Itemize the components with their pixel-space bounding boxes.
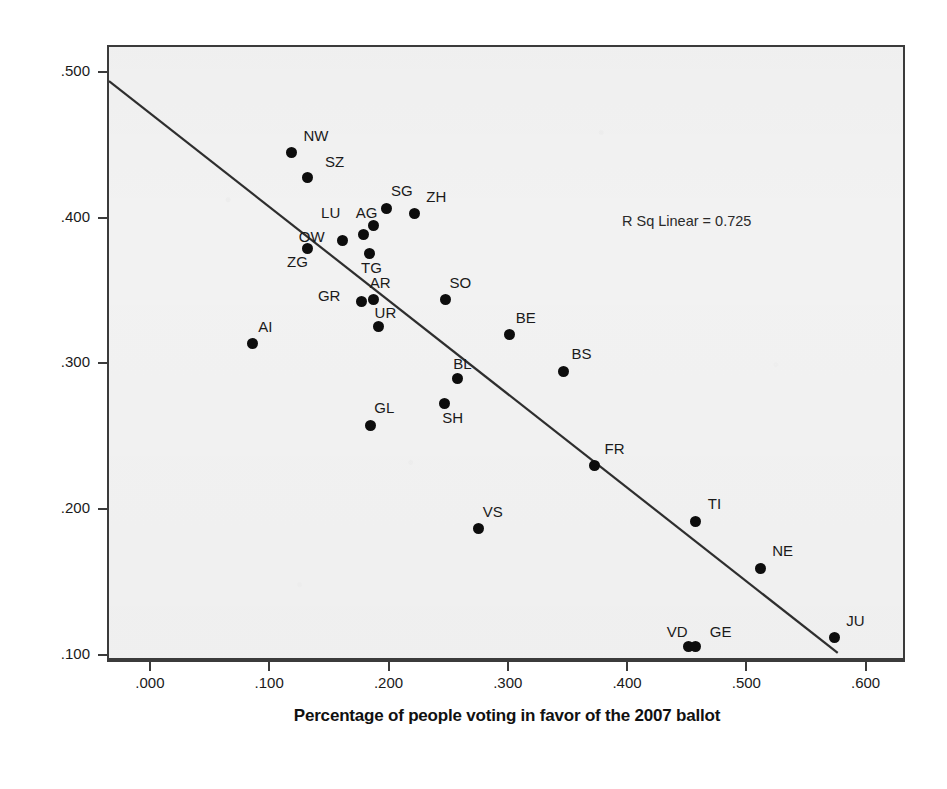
data-point-label: BL: [453, 355, 471, 372]
data-point[interactable]: [381, 203, 392, 214]
r-squared-annotation: R Sq Linear = 0.725: [622, 213, 751, 229]
x-tick-label: .100: [234, 674, 304, 691]
data-point-label: SO: [449, 274, 471, 291]
data-point-label: NE: [772, 542, 793, 559]
data-point-label: AR: [370, 274, 391, 291]
data-point-label: LU: [321, 204, 340, 221]
data-point[interactable]: [439, 398, 450, 409]
x-tick-mark: [507, 661, 509, 671]
data-point[interactable]: [247, 338, 258, 349]
x-tick-label: .200: [354, 674, 424, 691]
x-tick-label: .600: [831, 674, 901, 691]
data-point-label: GE: [710, 623, 732, 640]
data-point-label: SH: [442, 409, 463, 426]
x-tick-label: .400: [592, 674, 662, 691]
data-point-label: FR: [604, 440, 624, 457]
x-tick-mark: [388, 661, 390, 671]
x-tick-mark: [626, 661, 628, 671]
scatter-plot-figure: Percentage of people voting in favor of …: [0, 0, 947, 789]
data-point-label: VS: [483, 503, 503, 520]
data-point-label: JU: [846, 612, 864, 629]
data-point[interactable]: [373, 321, 384, 332]
data-point[interactable]: [365, 420, 376, 431]
data-point-label: SG: [391, 182, 413, 199]
data-point-label: SZ: [325, 153, 344, 170]
data-point-label: AG: [356, 204, 378, 221]
data-point-label: GR: [318, 287, 341, 304]
y-tick-label: .400: [32, 208, 90, 225]
x-axis-title: Percentage of people voting in favor of …: [107, 706, 907, 726]
data-point-label: VD: [667, 623, 688, 640]
data-point[interactable]: [755, 563, 766, 574]
data-point-label: BE: [516, 309, 536, 326]
y-tick-label: .200: [32, 499, 90, 516]
data-point-label: NW: [304, 127, 329, 144]
y-tick-label: .500: [32, 62, 90, 79]
regression-line: [109, 47, 903, 658]
data-point[interactable]: [302, 172, 313, 183]
x-tick-mark: [745, 661, 747, 671]
y-tick-label: .300: [32, 353, 90, 370]
data-point-label: AI: [258, 318, 272, 335]
data-point-label: UR: [375, 304, 397, 321]
data-point[interactable]: [558, 366, 569, 377]
y-axis-ticks: .500.400.300.200.100: [0, 0, 108, 789]
x-tick-mark: [149, 661, 151, 671]
data-point[interactable]: [358, 229, 369, 240]
plot-area: NWSZSGZHAGLUOWZGTGSOGRARURAIBEBSBLSHGLVS…: [107, 45, 905, 660]
x-tick-mark: [268, 661, 270, 671]
y-tick-label: .100: [32, 645, 90, 662]
x-tick-label: .300: [473, 674, 543, 691]
data-point-label: TI: [708, 495, 721, 512]
x-tick-mark: [865, 661, 867, 671]
data-point-label: GL: [374, 399, 394, 416]
data-point-label: BS: [571, 345, 591, 362]
data-point-label: ZH: [426, 188, 446, 205]
x-tick-label: .000: [115, 674, 185, 691]
data-point[interactable]: [364, 248, 375, 259]
x-tick-label: .500: [711, 674, 781, 691]
data-point[interactable]: [337, 235, 348, 246]
data-point-label: OW: [299, 228, 325, 245]
data-point-label: ZG: [287, 253, 308, 270]
data-point[interactable]: [452, 373, 463, 384]
